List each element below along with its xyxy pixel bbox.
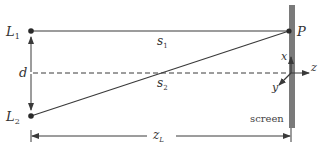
label-axis-y: y	[271, 81, 279, 94]
label-axis-z: z	[310, 61, 317, 74]
screen	[289, 5, 295, 128]
source-l1-dot	[28, 28, 34, 34]
label-axis-x: x	[281, 50, 288, 63]
label-screen: screen	[250, 113, 284, 124]
source-l2-dot	[28, 113, 34, 119]
label-l2: L2	[5, 109, 20, 126]
label-d: d	[19, 65, 27, 80]
label-p: P	[296, 24, 306, 39]
label-zl: zL	[152, 128, 164, 144]
label-s2: s2	[157, 76, 168, 92]
label-l1: L1	[5, 24, 20, 41]
point-p-dot	[286, 28, 291, 33]
label-s1: s1	[157, 34, 168, 50]
interference-diagram: L1 L2 d P s1 s2 zL screen x y z	[0, 0, 323, 149]
